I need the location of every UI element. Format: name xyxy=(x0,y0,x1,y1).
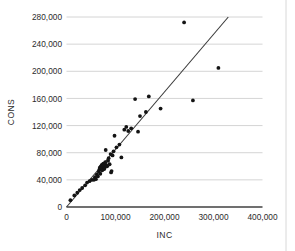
data-point xyxy=(191,99,195,103)
y-axis-tick-labels: 040,00080,000120,000160,000200,000240,00… xyxy=(32,12,62,212)
x-axis-tick-labels: 0100,000200,000300,000400,000 xyxy=(64,212,278,222)
y-tick-label: 40,000 xyxy=(37,175,63,185)
y-tick-label: 200,000 xyxy=(32,66,62,76)
data-point xyxy=(133,97,137,101)
data-point xyxy=(136,130,140,134)
data-point xyxy=(104,148,108,152)
y-tick-label: 280,000 xyxy=(32,12,62,22)
x-axis-title: INC xyxy=(157,230,173,240)
data-point xyxy=(115,145,119,149)
data-point xyxy=(124,125,128,129)
y-tick-label: 240,000 xyxy=(32,39,62,49)
data-point xyxy=(138,114,142,118)
data-point xyxy=(182,21,186,25)
data-points-group xyxy=(69,21,221,203)
data-point xyxy=(126,129,130,133)
y-tick-label: 80,000 xyxy=(37,148,63,158)
data-point xyxy=(69,198,73,202)
y-axis-title: CONS xyxy=(6,99,16,125)
data-point xyxy=(110,169,114,173)
x-tick-label: 100,000 xyxy=(101,212,131,222)
x-tick-label: 400,000 xyxy=(248,212,278,222)
x-tick-label: 200,000 xyxy=(150,212,180,222)
y-tick-label: 0 xyxy=(57,202,62,212)
data-point xyxy=(112,149,116,153)
data-point xyxy=(108,162,112,166)
y-tick-label: 160,000 xyxy=(32,94,62,104)
gridlines-group xyxy=(67,17,263,180)
data-point xyxy=(111,154,115,158)
data-point xyxy=(118,143,122,147)
data-point xyxy=(98,172,102,176)
data-point xyxy=(217,66,221,70)
data-point xyxy=(129,126,133,130)
data-point xyxy=(144,110,148,114)
scatter-plot-figure: 040,00080,000120,000160,000200,000240,00… xyxy=(0,0,295,251)
data-point xyxy=(159,107,163,111)
data-point xyxy=(80,186,84,190)
x-tick-label: 0 xyxy=(64,212,69,222)
data-point xyxy=(113,134,117,138)
data-point xyxy=(119,156,123,160)
chart-canvas: 040,00080,000120,000160,000200,000240,00… xyxy=(0,0,295,251)
y-tick-label: 120,000 xyxy=(32,121,62,131)
x-tick-label: 300,000 xyxy=(199,212,229,222)
data-point xyxy=(147,94,151,98)
data-point xyxy=(107,156,111,160)
data-point xyxy=(72,194,76,198)
